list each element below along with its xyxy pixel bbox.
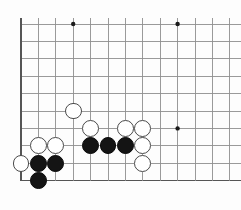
white-stone[interactable]: [30, 137, 47, 154]
black-stone[interactable]: [30, 172, 47, 189]
go-board[interactable]: [0, 0, 241, 210]
white-stone[interactable]: [117, 120, 134, 137]
white-stone[interactable]: [82, 120, 99, 137]
white-stone[interactable]: [134, 120, 151, 137]
star-point: [175, 22, 179, 26]
white-stone[interactable]: [13, 155, 30, 172]
black-stone[interactable]: [47, 155, 64, 172]
star-point: [175, 126, 179, 130]
go-diagram-page: [0, 0, 241, 210]
black-stone[interactable]: [30, 155, 47, 172]
star-point: [71, 22, 75, 26]
white-stone[interactable]: [134, 155, 151, 172]
black-stone[interactable]: [117, 137, 134, 154]
white-stone[interactable]: [65, 103, 82, 120]
